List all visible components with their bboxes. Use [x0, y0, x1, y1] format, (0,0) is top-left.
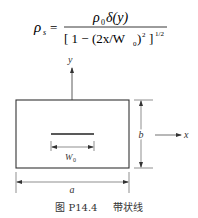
formula-lhs-subscript: s: [43, 28, 46, 37]
numerator-rho-sub: 0: [101, 18, 105, 27]
b-label: b: [139, 129, 144, 140]
denominator-square: 2: [142, 31, 146, 39]
stripline-diagram: y W 0 b x a: [0, 50, 198, 195]
denominator-close-paren: ): [137, 31, 141, 46]
denominator-bracket: ]: [149, 31, 153, 46]
denominator-main: [ 1 − (2x/W: [64, 31, 126, 46]
x-axis-label: x: [183, 129, 189, 140]
figure-title: 带状线: [113, 202, 143, 213]
formula-lhs-rho: ρ: [33, 19, 41, 35]
formula-equals: =: [50, 20, 57, 35]
charge-density-formula: ρ s = ρ 0 δ(y) [ 1 − (2x/W 0 ) 2 ] 1/2: [0, 0, 198, 50]
denominator-power: 1/2: [155, 30, 164, 38]
w0-label-sub: 0: [73, 157, 76, 163]
numerator-rho: ρ: [92, 10, 100, 25]
figure-caption: 图 P14.4 带状线: [0, 199, 198, 214]
figure-number: 图 P14.4: [55, 202, 97, 213]
numerator-delta: δ(y): [106, 10, 128, 26]
y-axis-label: y: [67, 54, 73, 65]
a-label: a: [70, 184, 75, 195]
